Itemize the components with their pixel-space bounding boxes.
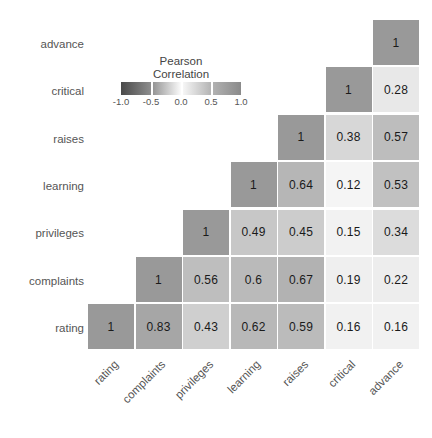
heatmap-cell: 1 [278,115,325,161]
heatmap-cell: 1 [231,162,278,208]
y-axis-label-advance: advance [6,38,84,50]
heatmap-cell: 0.28 [373,67,420,113]
legend-title-line-2: Correlation [118,68,244,81]
y-axis-label-critical: critical [6,85,84,97]
color-legend: Pearson Correlation -1.0-0.50.00.51.0 [118,55,244,115]
legend-tick--1.0: -1.0 [108,96,134,107]
heatmap-cell: 0.56 [183,257,230,303]
legend-tick--0.5: -0.5 [138,96,164,107]
legend-tickmark [151,82,153,95]
heatmap-cell: 0.59 [278,304,325,350]
heatmap-cell: 0.6 [231,257,278,303]
heatmap-cell: 1 [373,20,420,66]
x-axis-label-group: ratingcomplaintsprivilegeslearningraises… [88,352,432,438]
legend-title-line-1: Pearson [118,55,244,68]
heatmap-cell: 0.57 [373,115,420,161]
y-axis-label-complaints: complaints [6,275,84,287]
y-axis-label-learning: learning [6,180,84,192]
legend-tick-1.0: 1.0 [228,96,254,107]
heatmap-cell: 0.12 [326,162,373,208]
heatmap-cell: 0.15 [326,210,373,256]
x-axis-label-critical: critical [307,358,358,409]
x-axis-label-learning: learning [212,358,263,409]
y-axis-label-raises: raises [6,133,84,145]
x-axis-label-raises: raises [259,358,310,409]
x-axis-label-privileges: privileges [164,358,215,409]
heatmap-cell: 1 [136,257,183,303]
legend-title: Pearson Correlation [118,55,244,80]
legend-tick-0.5: 0.5 [198,96,224,107]
legend-tickmark [211,82,213,95]
y-axis-label-rating: rating [6,322,84,334]
heatmap-cell: 0.53 [373,162,420,208]
heatmap-cell: 1 [183,210,230,256]
heatmap-cell: 0.19 [326,257,373,303]
y-axis-label-privileges: privileges [6,227,84,239]
heatmap-cell: 0.22 [373,257,420,303]
heatmap-cell: 0.16 [373,304,420,350]
x-axis-label-rating: rating [69,358,120,409]
heatmap-cell: 0.64 [278,162,325,208]
legend-tickmark [181,82,183,95]
heatmap-cell: 1 [326,67,373,113]
heatmap-cell: 0.62 [231,304,278,350]
heatmap-cell: 0.38 [326,115,373,161]
legend-tick-0.0: 0.0 [168,96,194,107]
legend-tick-group: -1.0-0.50.00.51.0 [118,96,244,110]
heatmap-cell: 1 [88,304,135,350]
heatmap-cell: 0.16 [326,304,373,350]
x-axis-label-complaints: complaints [117,358,168,409]
x-axis-label-advance: advance [354,358,405,409]
y-axis-label-group: advancecriticalraiseslearningprivilegesc… [0,20,84,352]
correlation-heatmap-plot: advancecriticalraiseslearningprivilegesc… [0,0,432,438]
heatmap-cell: 0.45 [278,210,325,256]
heatmap-cell: 0.49 [231,210,278,256]
heatmap-cell: 0.43 [183,304,230,350]
heatmap-cell: 0.83 [136,304,183,350]
heatmap-cell: 0.34 [373,210,420,256]
heatmap-cell: 0.67 [278,257,325,303]
